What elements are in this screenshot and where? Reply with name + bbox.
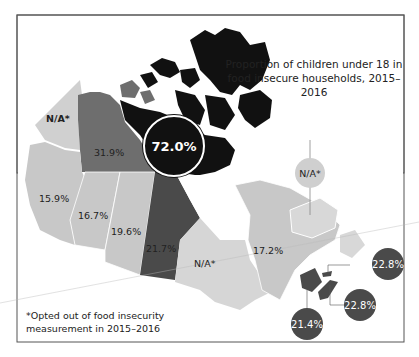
label-nwt: 31.9% (94, 147, 124, 158)
label-alberta: 16.7% (78, 210, 108, 221)
bubble-pei: 22.8% (372, 248, 404, 280)
footnote: *Opted out of food insecurity measuremen… (26, 309, 206, 335)
bubble-nova-scotia: 22.8% (344, 289, 376, 321)
bubble-nunavut: 72.0% (143, 115, 205, 177)
label-bc: 15.9% (39, 193, 69, 204)
bubble-newfoundland-labrador: N/A* (295, 158, 325, 188)
label-ontario: N/A* (194, 258, 216, 269)
label-yukon: N/A* (46, 113, 70, 124)
label-quebec: 17.2% (253, 245, 283, 256)
label-manitoba: 21.7% (146, 243, 176, 254)
label-saskatchewan: 19.6% (111, 226, 141, 237)
bubble-new-brunswick: 21.4% (291, 308, 323, 340)
map-title: Proportion of children under 18 in food … (224, 57, 404, 99)
